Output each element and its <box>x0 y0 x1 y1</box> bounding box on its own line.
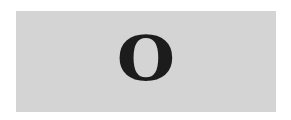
letter-card: O <box>16 11 276 112</box>
letter-glyph: O <box>117 28 175 90</box>
